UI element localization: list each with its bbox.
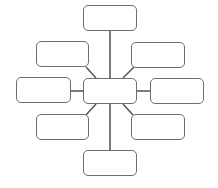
spider-diagram [0,0,218,188]
node-lower-right[interactable] [131,114,185,140]
connector-lower-right [123,104,133,115]
node-left[interactable] [16,77,71,103]
node-upper-right[interactable] [131,42,185,68]
node-lower-left[interactable] [36,114,89,140]
node-right[interactable] [150,78,204,104]
connector-upper-right [123,67,134,78]
node-center[interactable] [83,78,137,104]
node-top[interactable] [83,5,137,31]
connector-lower-left [86,104,96,115]
connector-upper-left [86,67,96,78]
node-bottom[interactable] [83,150,137,176]
node-upper-left[interactable] [36,41,89,67]
